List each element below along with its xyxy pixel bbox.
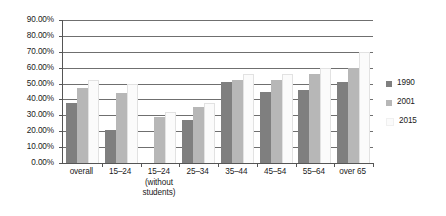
- bar-1990: [66, 103, 77, 163]
- bar-2015: [88, 80, 99, 163]
- bar-1990: [298, 90, 309, 163]
- bar-1990: [260, 92, 271, 164]
- y-axis-labels: 0.00%10.00%20.00%30.00%40.00%50.00%60.00…: [0, 0, 58, 216]
- bar-2001: [193, 107, 204, 163]
- y-axis-tick-label: 30.00%: [27, 111, 54, 119]
- x-axis-tick-label: overall: [62, 167, 101, 199]
- legend-swatch-icon: [386, 81, 392, 87]
- bar-2015: [282, 74, 293, 163]
- legend-item-2001[interactable]: 2001: [386, 93, 446, 112]
- y-axis-tick: [59, 163, 63, 164]
- x-axis-tick-label: 35–44: [217, 167, 256, 199]
- bar-2015: [359, 52, 370, 163]
- bar-2001: [116, 93, 127, 163]
- x-axis-tick-label: 15–24 (without students): [140, 167, 179, 199]
- legend-swatch-icon: [386, 118, 394, 126]
- bar-2015: [165, 112, 176, 163]
- bar-2015: [204, 103, 215, 163]
- x-axis-labels: overall15–2415–24 (without students)25–3…: [62, 167, 372, 199]
- legend-label: 1990: [397, 79, 415, 87]
- y-axis-tick-label: 80.00%: [27, 32, 54, 40]
- legend-item-1990[interactable]: 1990: [386, 74, 446, 93]
- y-axis-tick-label: 60.00%: [27, 64, 54, 72]
- bar-group: [141, 20, 180, 163]
- bar-2015: [127, 84, 138, 163]
- bar-group: [296, 20, 335, 163]
- bar-2001: [271, 80, 282, 163]
- x-axis-tick-label: 55–64: [295, 167, 334, 199]
- bar-2015: [243, 74, 254, 163]
- bar-2015: [320, 68, 331, 163]
- bar-group: [179, 20, 218, 163]
- legend-label: 2001: [397, 98, 415, 106]
- bar-group: [257, 20, 296, 163]
- y-axis-tick-label: 50.00%: [27, 79, 54, 87]
- bar-2001: [77, 88, 88, 163]
- bar-2001: [154, 117, 165, 163]
- bar-groups: [63, 20, 373, 163]
- bar-group: [218, 20, 257, 163]
- legend-swatch-icon: [386, 100, 392, 106]
- bar-chart: 0.00%10.00%20.00%30.00%40.00%50.00%60.00…: [0, 0, 446, 216]
- bar-1990: [105, 130, 116, 163]
- y-axis-tick-label: 40.00%: [27, 95, 54, 103]
- bar-group: [63, 20, 102, 163]
- x-axis-tick-label: 45–54: [256, 167, 295, 199]
- chart-legend: 199020012015: [386, 74, 446, 131]
- bar-2001: [348, 68, 359, 163]
- y-axis-tick-label: 90.00%: [27, 16, 54, 24]
- bar-1990: [221, 82, 232, 163]
- bar-group: [334, 20, 373, 163]
- x-axis-tick-label: over 65: [333, 167, 372, 199]
- bar-group: [102, 20, 141, 163]
- legend-label: 2015: [399, 117, 417, 125]
- y-axis-tick-label: 0.00%: [31, 159, 54, 167]
- bar-2001: [232, 80, 243, 163]
- bar-2001: [309, 74, 320, 163]
- x-axis-tick: [373, 163, 374, 167]
- bar-1990: [182, 120, 193, 163]
- y-axis-tick-label: 70.00%: [27, 48, 54, 56]
- x-axis-tick-label: 15–24: [101, 167, 140, 199]
- legend-item-2015[interactable]: 2015: [386, 112, 446, 131]
- y-axis-tick-label: 20.00%: [27, 127, 54, 135]
- bar-1990: [337, 82, 348, 163]
- x-axis-tick-label: 25–34: [178, 167, 217, 199]
- plot-area: [62, 20, 373, 164]
- y-axis-tick-label: 10.00%: [27, 143, 54, 151]
